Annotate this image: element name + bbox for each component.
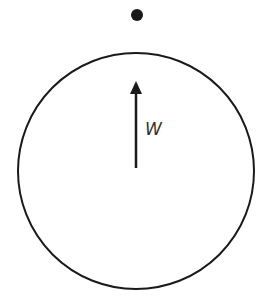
weight-label: W — [145, 119, 163, 139]
weight-vector-arrow — [130, 81, 142, 168]
diagram-canvas: W — [0, 0, 260, 302]
point-mass-dot — [131, 9, 143, 21]
arrow-head-icon — [130, 81, 142, 94]
